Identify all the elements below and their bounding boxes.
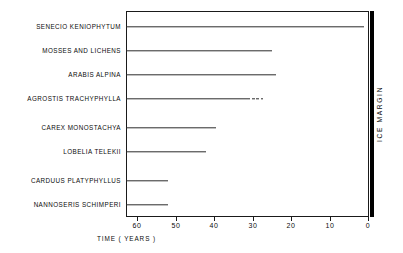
x-axis-line <box>126 216 369 217</box>
category-label: SENECIO KENIOPHYTUM <box>36 24 121 30</box>
x-tick-label: 0 <box>366 222 370 229</box>
x-axis-title: TIME ( YEARS ) <box>97 235 156 242</box>
plot-frame-top <box>126 11 369 12</box>
bar-carduus-platyphyllus <box>126 180 168 181</box>
x-axis-title-wrap: TIME ( YEARS ) <box>0 235 403 242</box>
category-label: CAREX MONOSTACHYA <box>42 125 122 131</box>
x-tick-label: 50 <box>172 222 181 229</box>
x-tick-30 <box>253 217 254 221</box>
category-label: LOBELIA TELEKII <box>63 149 121 155</box>
bar-arabis-alpina <box>126 74 276 75</box>
x-tick-10 <box>330 217 331 221</box>
bar-carex-monostachya <box>126 127 216 128</box>
bar-nannoseris-schimperi <box>126 204 168 205</box>
x-tick-0 <box>368 217 369 221</box>
category-label: ARABIS ALPINA <box>68 72 121 78</box>
x-tick-40 <box>214 217 215 221</box>
bar-agrostis-trachyphylla-dashed-tip <box>248 98 263 99</box>
x-tick-60 <box>137 217 138 221</box>
chart-figure: SENECIO KENIOPHYTUM MOSSES AND LICHENS A… <box>0 0 403 253</box>
x-tick-50 <box>176 217 177 221</box>
category-label: MOSSES AND LICHENS <box>42 48 121 54</box>
x-tick-20 <box>291 217 292 221</box>
x-tick-label: 20 <box>287 222 296 229</box>
y-axis-line <box>126 11 127 217</box>
bar-lobelia-telekii <box>126 151 206 152</box>
ice-margin-label: ICE MARGIN <box>376 86 383 142</box>
ice-margin-bar <box>370 11 374 217</box>
x-tick-label: 10 <box>326 222 335 229</box>
bar-agrostis-trachyphylla <box>126 98 248 99</box>
x-tick-label: 30 <box>249 222 258 229</box>
category-label: AGROSTIS TRACHYPHYLLA <box>27 96 121 102</box>
bar-senecio-keniophytum <box>126 26 364 27</box>
x-tick-label: 60 <box>133 222 142 229</box>
x-tick-label: 40 <box>210 222 219 229</box>
plot-frame-right <box>368 11 369 217</box>
bar-mosses-and-lichens <box>126 50 272 51</box>
category-label: CARDUUS PLATYPHYLLUS <box>31 178 121 184</box>
category-label: NANNOSERIS SCHIMPERI <box>34 202 121 208</box>
